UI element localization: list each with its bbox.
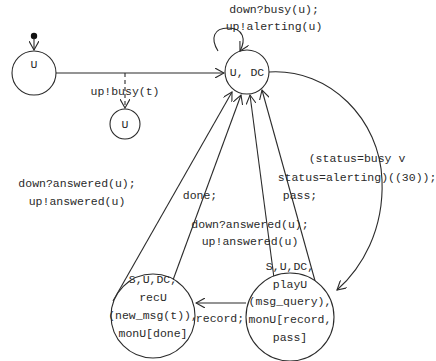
label-play-answered-line1: down?answered(u); xyxy=(191,218,308,231)
state-u-busy: U xyxy=(110,109,140,139)
state-label-line: monU[done] xyxy=(118,327,187,340)
label-record: record; xyxy=(196,312,244,325)
transition-play-answered xyxy=(250,95,274,278)
state-label-line: (new_msg(t)), xyxy=(108,309,198,322)
label-rec-answered-line1: down?answered(u); xyxy=(18,177,135,190)
label-play-answered-line2: up!answered(u) xyxy=(202,235,299,248)
state-label-line: monU[record, xyxy=(249,313,332,326)
state-label: U xyxy=(122,118,129,131)
label-self-loop-line2: up!alerting(u) xyxy=(226,20,323,33)
state-label-line: recU xyxy=(139,291,167,304)
transition-done xyxy=(173,95,241,280)
label-rec-answered-line2: up!answered(u) xyxy=(29,195,126,208)
state-play: S,U,DC, playU (msg_query), monU[record, … xyxy=(246,260,334,361)
state-label-line: S,U,DC, xyxy=(266,260,314,273)
state-label-line: playU xyxy=(273,278,308,291)
label-done: done; xyxy=(183,189,218,202)
label-self-loop-line1: down?busy(u); xyxy=(229,3,319,16)
state-u-initial: U xyxy=(12,51,56,95)
state-label-line: S,U,DC, xyxy=(129,273,177,286)
state-label-line: (msg_query), xyxy=(249,295,332,308)
state-u-dc: U, DC xyxy=(225,50,269,94)
state-diagram: U U, DC U S,U,DC, recU (new_msg(t)), mon… xyxy=(0,0,436,361)
state-label: U xyxy=(31,58,38,71)
label-pass: pass; xyxy=(283,189,318,202)
label-timeout-line1: (status=busy v xyxy=(309,152,406,165)
label-busy: up!busy(t) xyxy=(90,85,159,98)
label-timeout-line2: status=alerting)((30)); xyxy=(278,171,436,184)
state-label: U, DC xyxy=(230,66,265,79)
state-label-line: pass] xyxy=(273,331,308,344)
